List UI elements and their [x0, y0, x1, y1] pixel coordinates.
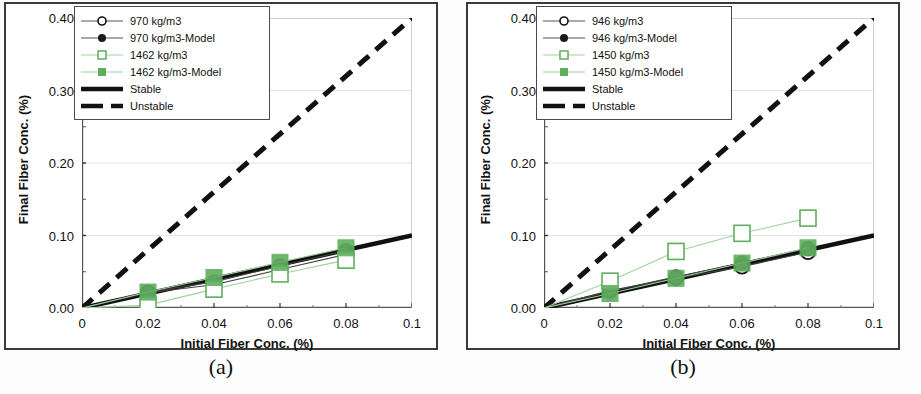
legend-label: 1462 kg/m3: [125, 49, 187, 61]
legend-item: 946 kg/m3: [541, 12, 725, 29]
legend-label: Stable: [587, 83, 623, 95]
legend-marker-filled-square: [560, 68, 568, 76]
legend-label: 946 kg/m3-Model: [587, 32, 677, 44]
legend-marker-open-circle: [560, 17, 568, 25]
x-tick-label: 0.08: [795, 316, 820, 331]
marker-filled-square: [338, 240, 354, 256]
x-tick-label: 0.04: [201, 316, 226, 331]
legend-label: Unstable: [587, 100, 635, 112]
x-tick-label: 0.06: [729, 316, 754, 331]
y-tick-label: 0.20: [511, 156, 536, 171]
legend-key-greenline-open-square: [541, 48, 587, 62]
marker-open-square: [734, 225, 750, 241]
y-tick-label: 0.30: [49, 83, 74, 98]
panel-b-y-axis-title: Final Fiber Conc. (%): [478, 45, 493, 275]
panel-a: 0.000.100.200.300.4000.020.040.060.080.1…: [4, 2, 444, 392]
legend-marker-filled-square: [98, 68, 106, 76]
panel-a-caption: (a): [4, 354, 438, 380]
legend-key-thick-dashed-line: [541, 99, 587, 113]
y-tick-label: 0.10: [49, 228, 74, 243]
legend-label: 1450 kg/m3-Model: [587, 66, 683, 78]
y-tick-label: 0.10: [511, 228, 536, 243]
legend-key-greenline-open-square: [79, 48, 125, 62]
legend-marker-filled-circle: [98, 34, 106, 42]
legend-key-line-filled-circle: [541, 31, 587, 45]
panel-a-x-axis-title: Initial Fiber Conc. (%): [82, 336, 412, 351]
legend-item: 1450 kg/m3: [541, 46, 725, 63]
marker-filled-square: [602, 286, 618, 302]
y-tick-label: 0.00: [49, 301, 74, 316]
legend-marker-open-square: [98, 51, 106, 59]
x-tick-label: 0.02: [597, 316, 622, 331]
x-tick-label: 0: [78, 316, 85, 331]
legend-item: 1462 kg/m3-Model: [79, 63, 263, 80]
x-tick-label: 0.1: [403, 316, 421, 331]
x-tick-label: 0.1: [865, 316, 883, 331]
y-tick-label: 0.30: [511, 83, 536, 98]
panel-b-caption: (b): [466, 354, 900, 380]
marker-open-square: [668, 243, 684, 259]
legend-label: 946 kg/m3: [587, 15, 643, 27]
y-tick-label: 0.40: [511, 11, 536, 26]
legend-key-greenline-filled-square: [79, 65, 125, 79]
marker-filled-square: [206, 270, 222, 286]
legend-item: Stable: [79, 80, 263, 97]
legend-key-greenline-filled-square: [541, 65, 587, 79]
legend-key-line-open-circle: [79, 14, 125, 28]
legend-marker-open-square: [560, 51, 568, 59]
marker-open-square: [800, 210, 816, 226]
marker-filled-square: [272, 254, 288, 270]
legend-item: 970 kg/m3-Model: [79, 29, 263, 46]
panel-b-x-axis-title: Initial Fiber Conc. (%): [544, 336, 874, 351]
marker-filled-square: [800, 240, 816, 256]
y-tick-label: 0.20: [49, 156, 74, 171]
marker-filled-square: [140, 284, 156, 300]
legend-label: Unstable: [125, 100, 173, 112]
x-tick-label: 0.06: [267, 316, 292, 331]
x-tick-label: 0.02: [135, 316, 160, 331]
legend-label: 1462 kg/m3-Model: [125, 66, 221, 78]
x-tick-label: 0.08: [333, 316, 358, 331]
legend-label: 1450 kg/m3: [587, 49, 649, 61]
x-tick-label: 0: [540, 316, 547, 331]
figure-two-panel-scatter: 0.000.100.200.300.4000.020.040.060.080.1…: [0, 0, 921, 394]
marker-filled-square: [668, 270, 684, 286]
legend-marker-filled-circle: [560, 34, 568, 42]
legend-key-line-open-circle: [541, 14, 587, 28]
panel-b-legend: 946 kg/m3946 kg/m3-Model1450 kg/m31450 k…: [536, 6, 732, 120]
legend-marker-open-circle: [98, 17, 106, 25]
legend-label: Stable: [125, 83, 161, 95]
series-line: [544, 218, 808, 308]
legend-key-thick-solid-line: [79, 82, 125, 96]
y-tick-label: 0.00: [511, 301, 536, 316]
panel-a-legend: 970 kg/m3970 kg/m3-Model1462 kg/m31462 k…: [74, 6, 270, 120]
legend-item: 1450 kg/m3-Model: [541, 63, 725, 80]
legend-label: 970 kg/m3-Model: [125, 32, 215, 44]
legend-item: Unstable: [79, 97, 263, 114]
legend-label: 970 kg/m3: [125, 15, 181, 27]
legend-item: 1462 kg/m3: [79, 46, 263, 63]
x-tick-label: 0.04: [663, 316, 688, 331]
legend-item: 970 kg/m3: [79, 12, 263, 29]
marker-filled-square: [734, 255, 750, 271]
legend-key-thick-dashed-line: [79, 99, 125, 113]
legend-item: Unstable: [541, 97, 725, 114]
panel-b: 0.000.100.200.300.4000.020.040.060.080.1…: [466, 2, 906, 392]
legend-item: Stable: [541, 80, 725, 97]
y-tick-label: 0.40: [49, 11, 74, 26]
legend-key-thick-solid-line: [541, 82, 587, 96]
legend-item: 946 kg/m3-Model: [541, 29, 725, 46]
panel-a-y-axis-title: Final Fiber Conc. (%): [16, 45, 31, 275]
legend-key-line-filled-circle: [79, 31, 125, 45]
